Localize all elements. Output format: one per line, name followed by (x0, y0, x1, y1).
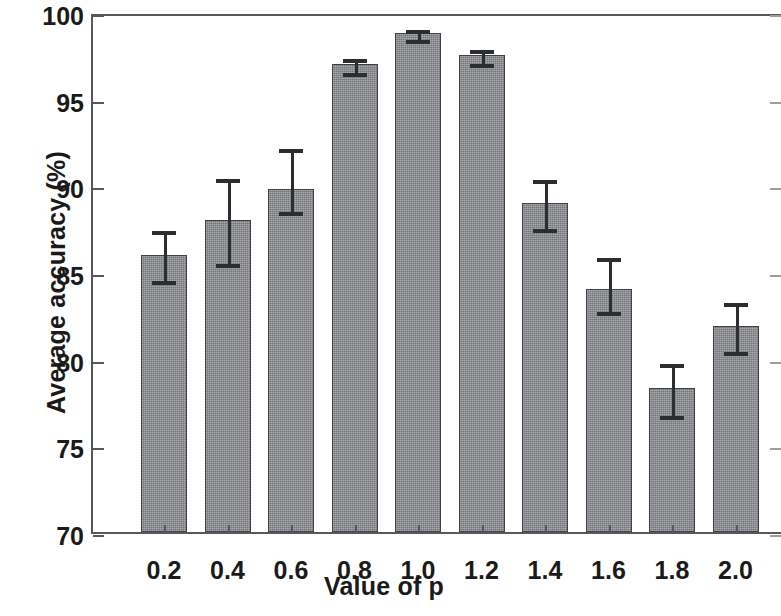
y-axis-tick-label: 80 (56, 348, 84, 377)
error-bar-cap-lower (724, 352, 748, 356)
y-axis-tick (93, 15, 104, 17)
y-axis-tick (93, 275, 104, 277)
y-axis-tick (93, 188, 104, 190)
x-axis-tick (291, 525, 293, 532)
bar (141, 255, 187, 532)
error-bar-stem (291, 151, 294, 213)
bar (332, 64, 378, 532)
error-bar-cap-lower (470, 64, 494, 68)
error-bar-cap-lower (279, 212, 303, 216)
y-axis-tick-right (770, 188, 781, 190)
y-axis-tick-right (770, 102, 781, 104)
bar (522, 203, 568, 532)
x-axis-tick (736, 525, 738, 532)
x-axis-label: Value of p (0, 572, 768, 601)
error-bar-cap-lower (343, 73, 367, 77)
error-bar-cap-upper (470, 50, 494, 54)
x-axis-tick (545, 525, 547, 532)
y-axis-tick-right (770, 535, 781, 537)
error-bar-stem (672, 366, 675, 418)
error-bar-cap-lower (660, 416, 684, 420)
bar (713, 326, 759, 532)
error-bar-cap-upper (724, 303, 748, 307)
error-bar-cap-lower (597, 312, 621, 316)
plot-area: 7075808590951000.20.40.60.81.01.21.41.61… (91, 14, 781, 534)
y-axis-tick-right (770, 362, 781, 364)
y-axis-tick (93, 362, 104, 364)
error-bar-cap-lower (406, 40, 430, 44)
error-bar-cap-upper (216, 179, 240, 183)
y-axis-tick-label: 100 (42, 2, 84, 31)
error-bar-cap-upper (533, 180, 557, 184)
x-axis-tick (355, 525, 357, 532)
bar (586, 289, 632, 532)
error-bar-stem (164, 233, 167, 283)
error-bar-stem (228, 181, 231, 266)
y-axis-tick (93, 448, 104, 450)
x-axis-tick (482, 525, 484, 532)
y-axis-tick-label: 90 (56, 175, 84, 204)
y-axis-tick-label: 75 (56, 435, 84, 464)
error-bar-stem (736, 305, 739, 354)
error-bar-cap-upper (152, 231, 176, 235)
error-bar-cap-lower (152, 281, 176, 285)
error-bar-cap-upper (343, 59, 367, 63)
error-bar-cap-upper (660, 364, 684, 368)
y-axis-tick-right (770, 448, 781, 450)
y-axis-tick (93, 102, 104, 104)
bar (268, 189, 314, 532)
y-axis-tick-label: 70 (56, 522, 84, 551)
x-axis-tick (164, 525, 166, 532)
y-axis-tick-label: 95 (56, 88, 84, 117)
bar (395, 33, 441, 532)
x-axis-tick (672, 525, 674, 532)
error-bar-stem (545, 182, 548, 231)
y-axis-tick-right (770, 275, 781, 277)
x-axis-tick (418, 525, 420, 532)
error-bar-stem (609, 260, 612, 314)
x-axis-tick (609, 525, 611, 532)
error-bar-cap-upper (597, 258, 621, 262)
error-bar-cap-lower (216, 264, 240, 268)
error-bar-cap-lower (533, 229, 557, 233)
y-axis-tick-label: 85 (56, 262, 84, 291)
y-axis-tick (93, 535, 104, 537)
x-axis-tick (228, 525, 230, 532)
error-bar-cap-upper (279, 149, 303, 153)
error-bar-cap-upper (406, 30, 430, 34)
bar (459, 55, 505, 532)
y-axis-tick-right (770, 15, 781, 17)
